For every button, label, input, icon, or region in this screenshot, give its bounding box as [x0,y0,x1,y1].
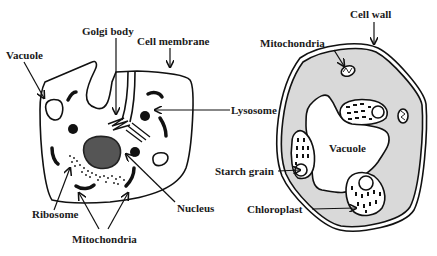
label-starch-grain: Starch grain [215,165,274,177]
label-ribosome: Ribosome [32,208,79,220]
label-cell-wall: Cell wall [350,8,391,20]
label-nucleus: Nucleus [177,202,215,214]
label-plant-vacuole: Vacuole [329,142,366,154]
animal-vacuole [46,99,63,119]
cell-diagram: Vacuole Golgi body Cell membrane Lysosom… [0,0,437,256]
nucleus [84,136,121,168]
label-chloroplast: Chloroplast [247,203,303,215]
label-lysosome: Lysosome [231,104,277,116]
label-golgi-body: Golgi body [82,25,134,37]
label-cell-membrane: Cell membrane [137,35,210,47]
label-vacuole: Vacuole [6,49,43,61]
label-mitochondria-animal: Mitochondria [72,233,137,245]
label-mitochondria-plant: Mitochondria [260,37,325,49]
